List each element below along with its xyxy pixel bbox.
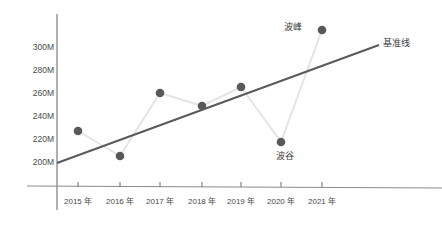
baseline-trend-line xyxy=(57,45,379,163)
annotation-trough: 波谷 xyxy=(276,149,294,162)
data-point xyxy=(277,138,286,147)
data-point xyxy=(74,127,83,136)
data-point xyxy=(318,26,327,35)
data-point-markers xyxy=(74,26,327,161)
x-tick-label-2021: 2021 年 xyxy=(297,195,347,206)
y-tick-label-280m: 280M xyxy=(12,65,54,75)
x-axis xyxy=(27,186,442,188)
y-tick-label-260m: 260M xyxy=(12,88,54,98)
data-point xyxy=(156,89,165,98)
chart-container: 300M 280M 260M 240M 220M 200M 2015 年 201… xyxy=(0,0,442,226)
data-point xyxy=(198,102,207,111)
data-point xyxy=(116,152,125,161)
y-tick-label-220m: 220M xyxy=(12,134,54,144)
y-tick-label-300m: 300M xyxy=(12,42,54,52)
annotation-baseline: 基准线 xyxy=(383,36,410,49)
annotation-peak: 波峰 xyxy=(284,20,302,33)
y-tick-label-200m: 200M xyxy=(12,157,54,167)
data-series-line xyxy=(78,30,322,156)
chart-plot-area xyxy=(0,0,442,226)
y-tick-label-240m: 240M xyxy=(12,111,54,121)
data-point xyxy=(237,83,246,92)
